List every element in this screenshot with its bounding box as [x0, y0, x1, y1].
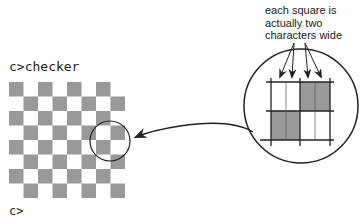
- checker-square: [96, 82, 111, 97]
- checker-square: [9, 140, 24, 155]
- caption-line: each square is: [265, 4, 360, 17]
- checker-square: [67, 82, 82, 97]
- checker-square: [53, 97, 68, 112]
- checker-square: [38, 140, 53, 155]
- terminal-next-prompt: c>: [9, 204, 23, 218]
- connector-arrow: [136, 123, 253, 137]
- checker-square: [24, 97, 39, 112]
- checker-square: [53, 155, 68, 170]
- checker-square: [67, 140, 82, 155]
- checker-square: [9, 82, 24, 97]
- caption-pointer-arrows: [280, 43, 321, 77]
- checker-square: [38, 82, 53, 97]
- caption-line: characters wide: [265, 29, 360, 42]
- checker-square: [53, 126, 68, 141]
- annotation-caption: each square is actually two characters w…: [265, 4, 360, 42]
- caption-line: actually two: [265, 17, 360, 30]
- checker-square: [53, 184, 68, 199]
- checker-square: [82, 126, 97, 141]
- checkerboard: [9, 82, 125, 198]
- checker-square: [24, 126, 39, 141]
- checker-square: [82, 155, 97, 170]
- checker-square: [96, 169, 111, 184]
- checker-square: [67, 111, 82, 126]
- checker-square: [9, 111, 24, 126]
- checker-square: [38, 111, 53, 126]
- checker-square: [111, 184, 126, 199]
- checker-square: [82, 97, 97, 112]
- checker-square: [96, 111, 111, 126]
- checker-square: [111, 126, 126, 141]
- magnified-grid: [260, 78, 334, 146]
- checker-square: [24, 155, 39, 170]
- checker-square: [111, 97, 126, 112]
- checker-square: [9, 169, 24, 184]
- checker-square: [38, 169, 53, 184]
- checker-square: [24, 184, 39, 199]
- checker-square: [67, 169, 82, 184]
- checker-square: [96, 140, 111, 155]
- checker-square: [82, 184, 97, 199]
